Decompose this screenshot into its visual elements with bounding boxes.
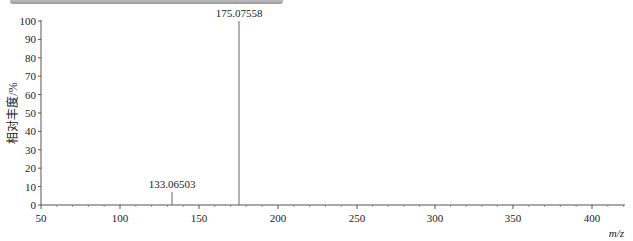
svg-text:300: 300 (427, 212, 444, 224)
svg-text:80: 80 (25, 52, 37, 64)
peak-label-175: 175.07558 (216, 7, 263, 19)
svg-text:60: 60 (25, 89, 37, 101)
svg-text:90: 90 (25, 33, 37, 45)
x-ticks-major (41, 205, 592, 209)
svg-text:40: 40 (25, 125, 37, 137)
svg-text:50: 50 (25, 107, 37, 119)
svg-text:50: 50 (36, 212, 48, 224)
y-axis-label: 相对丰度/% (5, 82, 20, 143)
peak-label-133: 133.06503 (149, 178, 196, 190)
svg-text:100: 100 (20, 15, 37, 27)
x-axis-label: m/z (609, 227, 625, 239)
svg-text:0: 0 (31, 199, 37, 211)
svg-text:400: 400 (584, 212, 601, 224)
svg-text:30: 30 (25, 144, 37, 156)
svg-text:100: 100 (112, 212, 129, 224)
svg-text:70: 70 (25, 70, 37, 82)
svg-text:150: 150 (191, 212, 208, 224)
svg-text:10: 10 (25, 181, 37, 193)
svg-text:350: 350 (505, 212, 522, 224)
svg-text:250: 250 (349, 212, 366, 224)
y-tick-labels: 0 10 20 30 40 50 60 70 80 90 100 (20, 15, 37, 211)
mass-spectrum-chart: 0 10 20 30 40 50 60 70 80 90 100 (0, 0, 633, 241)
svg-text:200: 200 (270, 212, 287, 224)
x-tick-labels: 50 100 150 200 250 300 350 400 (36, 212, 601, 224)
svg-text:20: 20 (25, 162, 37, 174)
